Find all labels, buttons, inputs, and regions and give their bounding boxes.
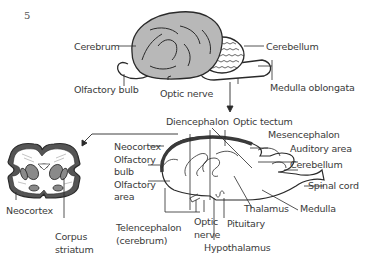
label-pituitary: Pituitary [227,218,265,229]
label-optic-nerve-top: Optic nerve [160,88,213,99]
label-medulla-oblongata: Medulla oblongata [270,82,355,93]
label-medulla: Medulla [300,203,336,214]
label-cerebellum: Cerebellum [266,41,318,52]
label-corpus-striatum-2: striatum [55,244,93,255]
label-cerebellum-sagittal: Cerebellum [290,159,342,170]
label-olfactory-bulb-sagittal-2: bulb [114,166,134,177]
label-hypothalamus: Hypothalamus [204,242,270,253]
label-spinal-cord: Spinal cord [308,180,359,191]
label-optic-nerve-sagittal-2: nerve [194,229,220,240]
label-optic-nerve-sagittal-1: Optic [194,216,218,227]
label-diencephalon: Diencephalon [166,116,229,127]
whole-brain-illustration [118,12,272,86]
label-cerebrum: Cerebrum [74,41,120,52]
label-thalamus: Thalamus [244,203,289,214]
label-auditory-area: Auditory area [290,143,352,154]
label-olfactory-area-1: Olfactory [114,179,156,190]
label-olfactory-bulb-sagittal-1: Olfactory [114,154,156,165]
label-telencephalon-2: (cerebrum) [116,235,167,246]
label-mesencephalon: Mesencephalon [268,129,340,140]
label-neocortex-cross: Neocortex [6,205,53,216]
arrow-down [227,82,233,112]
label-corpus-striatum-1: Corpus [55,231,87,242]
label-olfactory-bulb-top: Olfactory bulb [74,84,139,95]
label-olfactory-area-2: area [114,191,134,202]
label-telencephalon-1: Telencephalon [116,222,181,233]
label-neocortex-sagittal: Neocortex [114,141,161,152]
label-optic-tectum: Optic tectum [233,116,293,127]
